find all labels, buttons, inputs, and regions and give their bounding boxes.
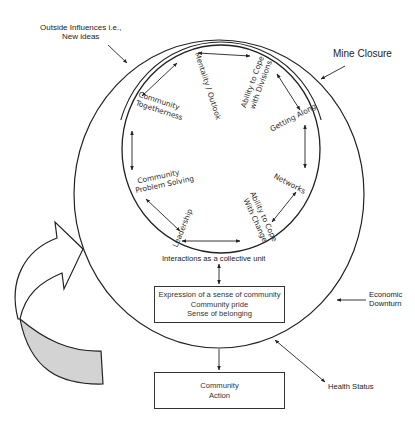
outside-influences-label: Outside Influences i.e., New ideas [40,23,121,41]
feedback-arrow [15,222,103,384]
inner-arrows [132,53,305,241]
diagram-canvas [0,0,415,421]
health-status-label: Health Status [328,383,374,392]
interactions-label: Interactions as a collective unit [162,255,265,264]
inner-circle [122,45,320,253]
mine-closure-label: Mine Closure [333,48,392,60]
economic-downturn-label: Economic Downturn [369,291,402,308]
sense-of-community-box: Expression of a sense of community Commu… [154,286,285,323]
inner-circle-outer-ring [117,42,325,256]
community-action-box: Community Action [154,372,285,409]
